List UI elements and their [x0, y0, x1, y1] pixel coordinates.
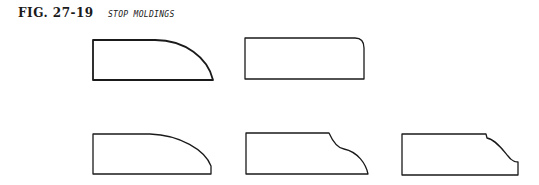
- profile-ogee: [246, 133, 368, 174]
- profile-quarter-round-large: [93, 40, 213, 80]
- profile-ogee-stepped: [402, 134, 518, 175]
- profile-quarter-round-fillet: [93, 134, 211, 174]
- moldings-drawing: [0, 0, 539, 185]
- profile-rounded-corner: [245, 38, 364, 79]
